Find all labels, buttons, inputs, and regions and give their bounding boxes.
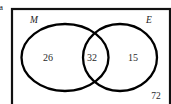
region-count-m-only: 26 <box>43 52 53 63</box>
region-count-intersection: 32 <box>87 52 97 63</box>
venn-diagram-canvas: a M E 26 32 15 72 <box>0 0 171 104</box>
venn-diagram-figure: a M E 26 32 15 72 <box>0 0 171 104</box>
region-count-outside: 72 <box>151 91 161 101</box>
set-label-m: M <box>29 15 39 25</box>
set-label-e: E <box>145 15 152 25</box>
region-count-e-only: 15 <box>128 52 138 63</box>
item-letter: a <box>0 2 3 12</box>
